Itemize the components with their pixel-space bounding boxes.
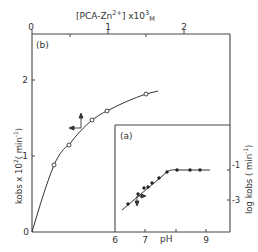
right-tick-minus1: -1 xyxy=(232,161,240,170)
main-axis-indicator-arrows xyxy=(69,113,83,130)
top-tick-0: 0 xyxy=(28,22,34,32)
main-data-points xyxy=(52,92,148,167)
top-tick-2: 2 xyxy=(181,22,187,32)
left-axis-title: kobs x 102( min-1) xyxy=(12,128,24,204)
right-axis-title: log kobs ( min-1) xyxy=(242,145,254,214)
inset-x-tick-7: 7 xyxy=(142,235,148,245)
panel-label-b: (b) xyxy=(36,40,49,50)
inset-axis-indicator-arrows xyxy=(135,194,146,206)
right-tick-minus3: -3 xyxy=(232,196,240,205)
main-fit-curve xyxy=(32,91,158,232)
inset-fit-curve xyxy=(122,170,210,210)
inset-x-title: pH xyxy=(160,234,172,244)
left-tick-2: 2 xyxy=(22,75,28,85)
inset-x-tick-6: 6 xyxy=(112,235,118,245)
panel-label-a: (a) xyxy=(120,131,133,141)
top-axis-title: [PCA-Zn2+] x103M xyxy=(76,9,155,23)
inset-x-tick-9: 9 xyxy=(203,235,209,245)
left-tick-0: 0 xyxy=(23,227,29,237)
chart-figure: 0 1 2 [PCA-Zn2+] x103M 2 1 0 kobs x 102(… xyxy=(0,0,258,252)
top-tick-1: 1 xyxy=(105,22,111,32)
